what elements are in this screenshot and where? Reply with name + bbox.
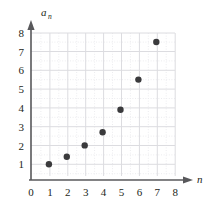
data-point — [153, 39, 159, 45]
x-axis — [29, 176, 193, 183]
data-point — [135, 76, 141, 82]
x-tick-label: 3 — [83, 186, 89, 198]
x-tick-label: 1 — [47, 186, 53, 198]
x-tick-label: 7 — [155, 186, 161, 198]
data-point — [99, 129, 105, 135]
chart-canvas: a n n 0 1 2 3 4 5 6 7 8 1 2 3 4 5 6 7 8 — [0, 0, 215, 207]
y-axis-label-subscript: n — [48, 12, 52, 21]
y-tick-label: 1 — [19, 158, 25, 170]
data-point — [46, 161, 52, 167]
y-tick-label: 6 — [19, 64, 25, 76]
data-point — [64, 153, 70, 159]
x-tick-label: 6 — [137, 186, 143, 198]
y-tick-label: 3 — [19, 121, 25, 133]
y-axis — [27, 20, 34, 180]
x-tick-label: 4 — [101, 186, 107, 198]
x-tick-labels: 0 1 2 3 4 5 6 7 8 — [28, 186, 178, 198]
data-point-series — [46, 39, 160, 168]
data-point — [117, 106, 123, 112]
x-tick-label: 0 — [28, 186, 34, 198]
y-tick-label: 7 — [19, 46, 25, 58]
y-tick-label: 8 — [19, 27, 25, 39]
x-tick-label: 2 — [65, 186, 71, 198]
x-tick-label: 5 — [119, 186, 125, 198]
y-tick-label: 4 — [19, 102, 25, 114]
x-tick-label: 8 — [172, 186, 178, 198]
y-tick-labels: 1 2 3 4 5 6 7 8 — [19, 27, 25, 170]
scatter-chart-figure: a n n 0 1 2 3 4 5 6 7 8 1 2 3 4 5 6 7 8 — [0, 0, 215, 207]
x-axis-label: n — [197, 173, 203, 185]
data-point — [82, 142, 88, 148]
y-tick-label: 5 — [19, 83, 25, 95]
y-axis-label: a — [41, 6, 47, 18]
y-tick-label: 2 — [19, 140, 25, 152]
